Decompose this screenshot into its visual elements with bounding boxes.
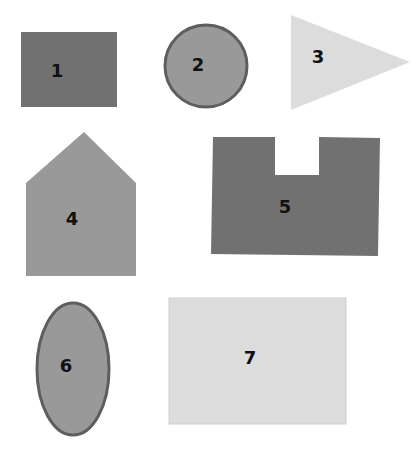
shape-label: 5 [279,196,292,217]
shape-label: 7 [244,347,257,368]
shape-label: 3 [312,46,325,67]
shape-5-notched-rectangle: 5 [211,137,380,256]
shape-4-pentagon: 4 [26,132,136,276]
ellipse-shape [37,303,109,435]
shape-1-rectangle: 1 [21,32,117,107]
shapes-diagram: 1 2 3 4 5 6 7 [0,0,420,452]
pentagon-shape [26,132,136,276]
notched-rectangle-shape [211,137,380,256]
shape-2-circle: 2 [165,25,247,107]
triangle-shape [291,15,410,110]
shape-label: 6 [60,355,73,376]
circle-shape [165,25,247,107]
shape-label: 4 [66,208,79,229]
shape-7-rectangle: 7 [169,298,346,424]
shape-6-ellipse: 6 [37,303,109,435]
rectangle-shape [21,32,117,107]
shape-label: 2 [192,54,205,75]
shape-3-triangle: 3 [291,15,410,110]
rectangle-shape [169,298,346,424]
shape-label: 1 [51,60,64,81]
